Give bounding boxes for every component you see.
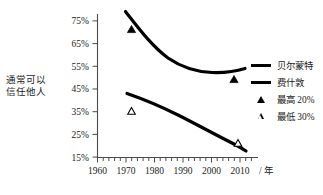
series-line-belmont bbox=[126, 12, 246, 73]
legend-label-fishtown: 费什敦 bbox=[271, 75, 304, 89]
y-tick-label-25: 25% bbox=[72, 130, 90, 140]
x-tick-label-1990: 1990 bbox=[174, 166, 193, 176]
marker-bottom30-1973 bbox=[128, 108, 136, 115]
legend-label-bottom30: 最低 30% bbox=[271, 109, 315, 123]
legend-line-swatch-icon bbox=[250, 64, 271, 67]
y-tick-label-15: 15% bbox=[72, 153, 90, 163]
legend-label-top20: 最高 20% bbox=[271, 92, 315, 106]
y-tick-label-55: 55% bbox=[72, 62, 90, 72]
x-axis-major-ticks bbox=[98, 158, 241, 163]
y-axis-title: 通常可以 信任他人 bbox=[6, 74, 68, 99]
x-tick-label-2000: 2000 bbox=[202, 166, 221, 176]
marker-top20-2008 bbox=[230, 76, 238, 83]
legend-label-belmont: 贝尔蒙特 bbox=[271, 58, 313, 72]
y-axis-title-line2: 信任他人 bbox=[6, 86, 68, 98]
legend-item-belmont: 贝尔蒙特 bbox=[250, 57, 323, 73]
series-line-fishtown bbox=[127, 94, 246, 152]
legend-line-swatch-icon bbox=[250, 81, 271, 84]
y-axis-title-line1: 通常可以 bbox=[6, 74, 68, 86]
y-tick-label-75: 75% bbox=[72, 16, 90, 26]
legend-item-top20: 最高 20% bbox=[250, 91, 323, 107]
x-axis-unit-label: / 年 bbox=[259, 165, 274, 176]
y-axis-ticks bbox=[93, 21, 98, 157]
x-tick-label-1970: 1970 bbox=[117, 166, 136, 176]
x-tick-label-2010: 2010 bbox=[231, 166, 250, 176]
triangle-hollow-icon bbox=[250, 113, 271, 119]
chart-legend: 贝尔蒙特 费什敦 最高 20% 最低 30% bbox=[250, 57, 323, 125]
triangle-filled-icon bbox=[250, 96, 271, 103]
y-tick-label-35: 35% bbox=[72, 107, 90, 117]
x-tick-label-1960: 1960 bbox=[88, 166, 107, 176]
y-tick-label-45: 45% bbox=[72, 84, 90, 94]
marker-bottom30-2008 bbox=[234, 140, 242, 147]
marker-top20-1973 bbox=[127, 26, 135, 33]
y-tick-label-65: 65% bbox=[72, 39, 90, 49]
chart-container: 75% 65% 55% 45% 35% 25% 15% bbox=[0, 0, 323, 195]
legend-item-fishtown: 费什敦 bbox=[250, 74, 323, 90]
x-tick-label-1980: 1980 bbox=[145, 166, 164, 176]
legend-item-bottom30: 最低 30% bbox=[250, 108, 323, 124]
